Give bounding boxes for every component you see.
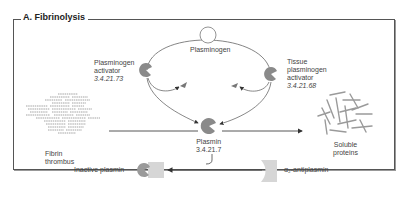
activation-cycle-arc xyxy=(147,40,270,70)
tissue-plasminogen-activator-label: Tissue plasminogen activator 3.4.21.68 xyxy=(287,58,327,90)
soluble-proteins-label-line1: Soluble xyxy=(333,141,358,149)
plasmin-label-name: Plasmin xyxy=(196,138,221,146)
tpa-ec-number: 3.4.21.68 xyxy=(287,82,327,90)
plasminogen-label: Plasminogen xyxy=(190,46,230,54)
fibrin-thrombus-icon xyxy=(26,94,100,133)
fibrin-thrombus-label-line2: thrombus xyxy=(45,158,74,166)
alpha2-antiplasmin-icon xyxy=(261,160,277,182)
fibrin-thrombus-label-line1: Fibrin xyxy=(45,150,74,158)
plasminogen-activator-enzyme-icon xyxy=(139,63,152,77)
tpa-label-line2: plasminogen xyxy=(287,66,327,74)
plasminogen-activator-label-line2: activator xyxy=(94,67,134,75)
plasminogen-activator-ec-number: 3.4.21.73 xyxy=(94,75,134,83)
left-activation-arrow xyxy=(148,78,179,91)
plasminogen-icon xyxy=(200,27,216,43)
soluble-proteins-label-line2: proteins xyxy=(333,149,358,157)
plasminogen-activator-label: Plasminogen activator 3.4.21.73 xyxy=(94,59,134,83)
tpa-label-line3: activator xyxy=(287,74,327,82)
soluble-proteins-label: Soluble proteins xyxy=(333,141,358,157)
plasmin-enzyme-icon xyxy=(201,118,216,134)
tpa-label-line1: Tissue xyxy=(287,58,327,66)
inactive-plasmin-label: Inactive plasmin xyxy=(74,166,124,174)
plasminogen-activator-label-line1: Plasminogen xyxy=(94,59,134,67)
fibrin-thrombus-label: Fibrin thrombus xyxy=(45,150,74,166)
left-to-plasmin-arrow xyxy=(147,78,198,123)
fragment-right-icon xyxy=(231,83,238,88)
fragment-left-icon xyxy=(180,82,187,88)
alpha2-antiplasmin-label: α₂-antiplasmin xyxy=(284,166,329,174)
right-activation-arrow xyxy=(240,82,269,91)
diagram-canvas xyxy=(0,0,404,204)
tissue-plasminogen-activator-enzyme-icon xyxy=(264,67,277,81)
plasmin-inhibition-hook xyxy=(206,154,212,164)
plasmin-label: Plasmin 3.4.21.7 xyxy=(196,138,221,154)
inactive-plasmin-complex-icon xyxy=(137,162,164,178)
plasmin-ec-number: 3.4.21.7 xyxy=(196,146,221,154)
soluble-proteins-icon xyxy=(318,92,372,134)
